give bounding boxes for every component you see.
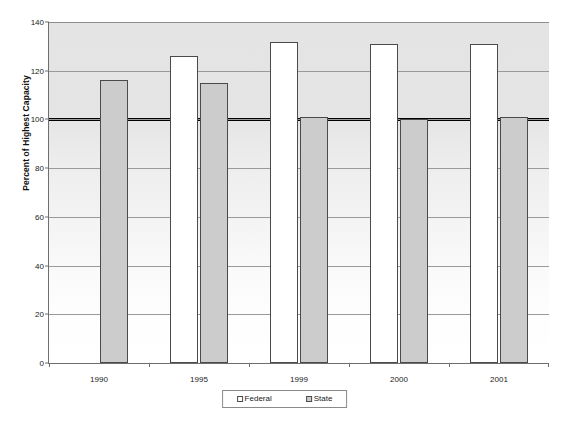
x-tick-mark-2000 <box>349 363 350 367</box>
y-tick-label-140: 140 <box>31 18 44 27</box>
x-tick-mark-2001 <box>449 363 450 367</box>
bar-group-1999 <box>249 22 349 363</box>
chart-legend: Federal State <box>222 390 348 408</box>
y-tick-label-60: 60 <box>35 212 44 221</box>
y-tick-label-100: 100 <box>31 115 44 124</box>
bar-federal-1999 <box>270 42 298 364</box>
bar-state-1990 <box>100 80 128 363</box>
x-tick-mark-1990 <box>49 363 50 367</box>
y-tick-label-20: 20 <box>35 310 44 319</box>
legend-label-state: State <box>314 394 333 403</box>
bar-state-2001 <box>500 117 528 363</box>
bar-federal-2001 <box>470 44 498 363</box>
plot-area: 02040608010012014019901995199920002001 <box>48 22 549 364</box>
capacity-bar-chart: Percent of Highest Capacity 020406080100… <box>0 0 569 424</box>
bar-federal-2000 <box>370 44 398 363</box>
x-tick-mark-end <box>548 363 549 367</box>
x-tick-label-1990: 1990 <box>90 375 108 384</box>
x-tick-label-1995: 1995 <box>190 375 208 384</box>
legend-item-state: State <box>306 394 333 403</box>
gray-square-marker-icon <box>306 396 312 402</box>
y-tick-label-120: 120 <box>31 66 44 75</box>
white-square-marker-icon <box>237 396 243 402</box>
bar-group-2001 <box>449 22 549 363</box>
y-tick-label-0: 0 <box>40 359 44 368</box>
y-tick-label-80: 80 <box>35 164 44 173</box>
plot-inner: 02040608010012014019901995199920002001 <box>49 22 549 363</box>
x-tick-label-2001: 2001 <box>490 375 508 384</box>
x-tick-label-1999: 1999 <box>290 375 308 384</box>
x-tick-mark-1995 <box>149 363 150 367</box>
legend-label-federal: Federal <box>245 394 272 403</box>
x-tick-label-2000: 2000 <box>390 375 408 384</box>
x-tick-mark-1999 <box>249 363 250 367</box>
y-tick-label-40: 40 <box>35 261 44 270</box>
bar-group-2000 <box>349 22 449 363</box>
bar-state-1995 <box>200 83 228 363</box>
bar-state-2000 <box>400 119 428 363</box>
bar-state-1999 <box>300 117 328 363</box>
bar-group-1995 <box>149 22 249 363</box>
bar-federal-1995 <box>170 56 198 363</box>
bar-group-1990 <box>49 22 149 363</box>
legend-item-federal: Federal <box>237 394 272 403</box>
y-axis-title: Percent of Highest Capacity <box>21 53 31 213</box>
